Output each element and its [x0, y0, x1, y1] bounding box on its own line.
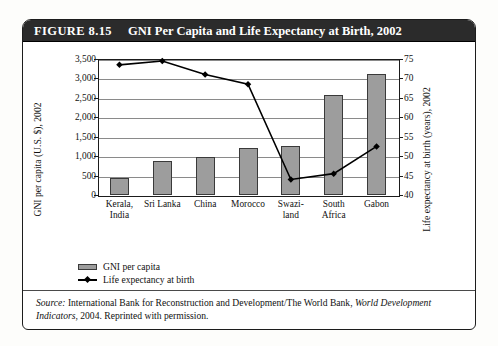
figure-page: FIGURE 8.15 GNI Per Capita and Life Expe… — [0, 0, 498, 346]
y2-tick-mark — [399, 137, 403, 138]
y2-tick-label: 50 — [404, 151, 413, 161]
life-expectancy-line-series — [98, 59, 398, 195]
y-tick-label: 2,500 — [75, 93, 96, 103]
y-tick-label: 1,500 — [75, 132, 96, 142]
legend-item-gni: GNI per capita — [78, 260, 194, 273]
legend-item-life-expectancy: Life expectancy at birth — [78, 273, 194, 286]
y2-axis-title: Life expectancy at birth (years), 2002 — [421, 84, 432, 236]
bar-swatch-icon — [78, 264, 97, 270]
y2-tick-mark — [399, 176, 403, 177]
y2-tick-label: 65 — [404, 93, 413, 103]
life-expectancy-line — [119, 61, 376, 180]
category-label: Gabon — [347, 199, 407, 210]
legend-label-gni: GNI per capita — [103, 261, 160, 272]
figure-header: FIGURE 8.15 GNI Per Capita and Life Expe… — [23, 20, 475, 42]
y2-tick-mark — [399, 78, 403, 79]
y-tick-label: 3,000 — [75, 73, 96, 83]
y2-tick-mark — [399, 195, 403, 196]
source-label: Source: — [36, 297, 65, 308]
y2-tick-mark — [399, 98, 403, 99]
y2-tick-mark — [399, 59, 403, 60]
line-marker-icon — [78, 275, 97, 284]
line-data-point — [245, 81, 252, 88]
y2-tick-label: 75 — [404, 54, 413, 64]
y-tick-mark — [94, 195, 98, 196]
y-axis-title: GNI per capita (U.S. $), 2002 — [32, 87, 43, 233]
source-text-2: , 2004. Reprinted with permission. — [75, 310, 208, 321]
y2-tick-label: 70 — [404, 73, 413, 83]
y-tick-label: 3,500 — [75, 54, 96, 64]
line-data-point — [159, 58, 166, 65]
y2-tick-label: 45 — [404, 171, 413, 181]
source-text-1: International Bank for Reconstruction an… — [65, 297, 354, 308]
chart-area: GNI per capita (U.S. $), 2002 Life expec… — [23, 42, 476, 290]
y-tick-label: 1,000 — [75, 151, 96, 161]
figure-box: FIGURE 8.15 GNI Per Capita and Life Expe… — [22, 19, 476, 330]
figure-number: FIGURE 8.15 — [34, 24, 112, 39]
y2-tick-mark — [399, 156, 403, 157]
line-data-point — [202, 71, 209, 78]
source-divider — [23, 290, 475, 291]
line-data-point — [288, 176, 295, 183]
source-text-italic-1: World — [355, 297, 378, 308]
figure-title: GNI Per Capita and Life Expectancy at Bi… — [128, 24, 402, 39]
y2-tick-label: 55 — [404, 132, 413, 142]
chart-legend: GNI per capita Life expectancy at birth — [78, 260, 194, 286]
legend-label-life-expectancy: Life expectancy at birth — [103, 274, 194, 285]
y2-tick-mark — [399, 117, 403, 118]
source-note: Source: International Bank for Reconstru… — [36, 297, 464, 322]
y2-tick-label: 60 — [404, 112, 413, 122]
line-data-point — [116, 62, 123, 69]
y-tick-label: 2,000 — [75, 112, 96, 122]
